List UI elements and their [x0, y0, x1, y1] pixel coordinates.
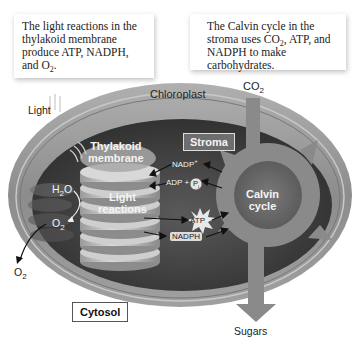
light-reactions-label: Light reactions [98, 191, 147, 215]
light-text: Light [98, 191, 147, 203]
h2o-text-h: H [52, 183, 60, 195]
co2-text: CO [243, 80, 260, 92]
nadp-text: NADP [172, 160, 194, 169]
o2-inner-subscript: 2 [60, 223, 64, 232]
light-label: Light [28, 104, 51, 116]
co2-label: CO2 [243, 80, 264, 92]
stroma-label: Stroma [183, 133, 235, 151]
sugars-label: Sugars [234, 325, 267, 337]
phosphate-label: Pi [193, 179, 199, 188]
thylakoid-membrane-label: Thylakoid membrane [88, 140, 144, 164]
nadp-superscript: + [194, 158, 198, 164]
o2-released-label: O2 [14, 266, 27, 278]
co2-subscript: 2 [260, 86, 264, 95]
reactions-text: reactions [98, 203, 147, 215]
calvin-cycle-label: Calvin cycle [246, 188, 279, 212]
atp-label: ATP [190, 216, 205, 225]
o2-outer-text: O [14, 266, 22, 278]
chloroplast-label: Chloroplast [150, 88, 206, 100]
pi-subscript: i [198, 184, 199, 190]
cycle-text: cycle [246, 200, 279, 212]
co2-input-arrow [246, 98, 260, 160]
adp-plus-label: ADP + [166, 178, 189, 187]
cytosol-label: Cytosol [72, 302, 128, 322]
nadp-plus-label: NADP+ [172, 158, 198, 169]
membrane-text: membrane [88, 152, 144, 164]
h2o-text-o: O [64, 183, 72, 195]
h2o-label: H2O [52, 183, 72, 195]
chloroplast-diagram [0, 0, 353, 341]
nadph-label: NADPH [170, 232, 202, 241]
o2-inner-label: O2 [52, 217, 65, 229]
o2-outer-subscript: 2 [22, 272, 26, 281]
thylakoid-text: Thylakoid [88, 140, 144, 152]
o2-inner-text: O [52, 217, 60, 229]
calvin-text: Calvin [246, 188, 279, 200]
